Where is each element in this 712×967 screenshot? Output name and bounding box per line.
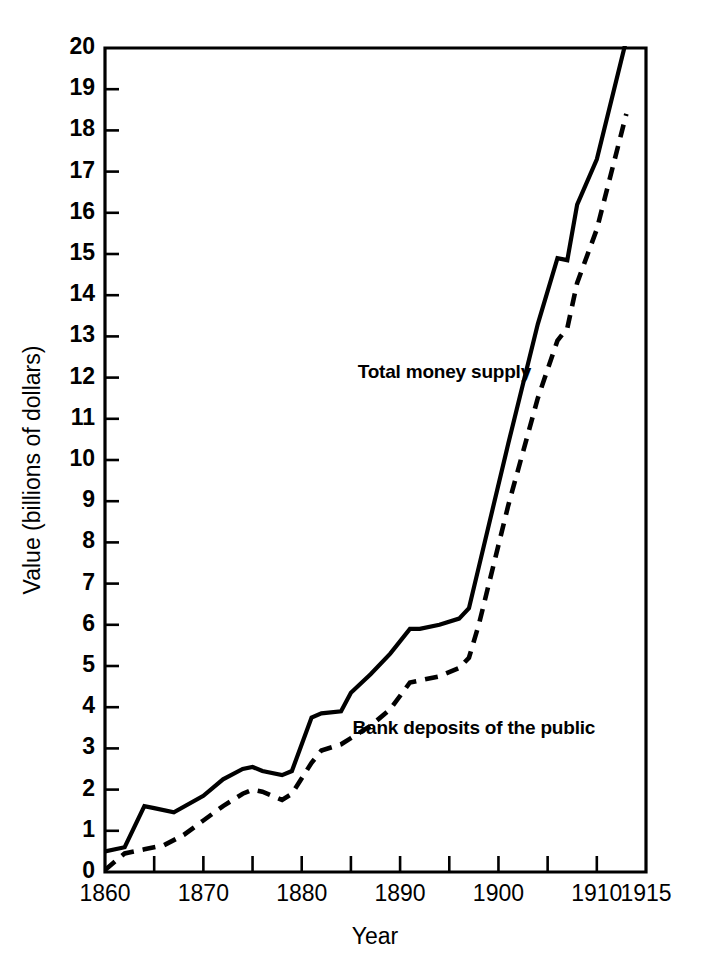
y-tick-label-16: 16 [69, 198, 95, 224]
series-line-bank-deposits [105, 114, 626, 870]
y-tick-label-9: 9 [82, 486, 95, 512]
y-tick-label-8: 8 [82, 527, 95, 553]
y-tick-label-19: 19 [69, 74, 95, 100]
y-tick-label-17: 17 [69, 157, 95, 183]
y-tick-label-3: 3 [82, 733, 95, 759]
y-tick-label-2: 2 [82, 775, 95, 801]
y-axis-tick-labels: 01234567891011121314151617181920 [69, 33, 95, 883]
y-axis-ticks [105, 89, 119, 831]
x-tick-label-1900: 1900 [473, 880, 524, 906]
y-tick-label-12: 12 [69, 363, 95, 389]
x-tick-label-1915: 1915 [620, 880, 671, 906]
y-tick-label-4: 4 [82, 692, 95, 718]
y-tick-label-5: 5 [82, 651, 95, 677]
line-chart-svg: 01234567891011121314151617181920 1860187… [0, 0, 712, 967]
x-axis-ticks [154, 856, 597, 872]
chart-figure: 01234567891011121314151617181920 1860187… [0, 0, 712, 967]
plot-frame [105, 48, 646, 872]
y-tick-label-13: 13 [69, 321, 95, 347]
x-tick-label-1880: 1880 [276, 880, 327, 906]
y-tick-label-10: 10 [69, 445, 95, 471]
y-axis-title: Value (billions of dollars) [19, 346, 45, 595]
x-tick-label-1910: 1910 [571, 880, 622, 906]
y-tick-label-18: 18 [69, 115, 95, 141]
y-tick-label-11: 11 [71, 404, 96, 430]
x-tick-label-1890: 1890 [375, 880, 426, 906]
y-tick-label-6: 6 [82, 610, 95, 636]
y-tick-label-1: 1 [82, 816, 95, 842]
series-label-total-money-supply: Total money supply [358, 361, 532, 382]
y-tick-label-14: 14 [69, 280, 95, 306]
y-tick-label-15: 15 [69, 239, 95, 265]
x-tick-label-1870: 1870 [178, 880, 229, 906]
x-axis-title: Year [352, 923, 399, 949]
series-label-bank-deposits: Bank deposits of the public [353, 717, 596, 738]
x-tick-label-1860: 1860 [79, 880, 130, 906]
x-axis-tick-labels: 1860187018801890190019101915 [79, 880, 671, 906]
data-series-group [105, 40, 626, 870]
y-tick-label-7: 7 [82, 569, 95, 595]
y-tick-label-20: 20 [69, 33, 95, 59]
